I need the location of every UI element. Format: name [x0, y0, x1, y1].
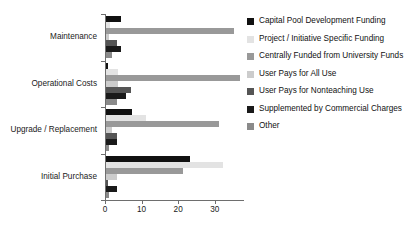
bar [106, 75, 240, 81]
legend-label: User Pays for All Use [259, 69, 336, 80]
y-axis-tick [101, 14, 105, 15]
legend-swatch-icon [247, 123, 254, 130]
bar [106, 192, 109, 198]
legend-item[interactable]: Capital Pool Development Funding [247, 16, 414, 27]
category-label: Maintenance [0, 32, 97, 42]
x-axis-tick [105, 200, 106, 204]
legend-label: Other [259, 121, 279, 132]
x-axis-tick [178, 200, 179, 204]
category-label: Operational Costs [0, 79, 97, 89]
plot-area: MaintenanceOperational CostsUpgrade / Re… [0, 0, 250, 231]
bar [106, 99, 117, 105]
category-label: Upgrade / Replacement [0, 125, 97, 135]
bar [106, 145, 109, 151]
legend-swatch-icon [247, 88, 254, 95]
y-axis-tick [101, 154, 105, 155]
bar [106, 121, 219, 127]
legend-label: User Pays for Nonteaching Use [259, 86, 374, 97]
y-axis-tick [101, 107, 105, 108]
legend-item[interactable]: Centrally Funded from University Funds [247, 51, 414, 62]
x-axis-tick [142, 200, 143, 204]
bar-chart: MaintenanceOperational CostsUpgrade / Re… [0, 0, 414, 231]
legend-label: Capital Pool Development Funding [259, 16, 386, 27]
legend-item[interactable]: Supplemented by Commercial Charges [247, 104, 414, 115]
y-axis-tick [101, 61, 105, 62]
legend-swatch-icon [247, 18, 254, 25]
legend-label: Supplemented by Commercial Charges [259, 104, 402, 115]
legend-item[interactable]: Other [247, 121, 414, 132]
x-axis-tick-label: 10 [131, 205, 153, 215]
bar [106, 168, 183, 174]
x-axis-line [105, 200, 244, 201]
chart-legend: Capital Pool Development FundingProject … [247, 16, 414, 139]
legend-label: Centrally Funded from University Funds [259, 51, 403, 62]
x-axis-tick-label: 20 [167, 205, 189, 215]
legend-item[interactable]: Project / Initiative Specific Funding [247, 34, 414, 45]
x-axis-tick-label: 0 [94, 205, 116, 215]
legend-swatch-icon [247, 53, 254, 60]
category-axis-labels: MaintenanceOperational CostsUpgrade / Re… [0, 14, 101, 200]
legend-swatch-icon [247, 71, 254, 78]
legend-swatch-icon [247, 36, 254, 43]
bar [106, 28, 234, 34]
x-axis-tick-label: 30 [204, 205, 226, 215]
x-axis-tick [215, 200, 216, 204]
bar [106, 52, 112, 58]
legend-item[interactable]: User Pays for Nonteaching Use [247, 86, 414, 97]
legend-item[interactable]: User Pays for All Use [247, 69, 414, 80]
category-label: Initial Purchase [0, 172, 97, 182]
bars-layer [106, 14, 246, 200]
legend-swatch-icon [247, 106, 254, 113]
legend-label: Project / Initiative Specific Funding [259, 34, 384, 45]
